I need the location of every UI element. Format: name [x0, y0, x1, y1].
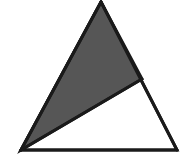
figure-canvas	[0, 0, 184, 156]
triangle-diagram-svg	[0, 0, 184, 156]
